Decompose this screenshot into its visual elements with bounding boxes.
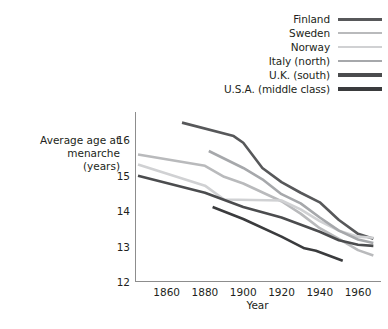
legend-color-swatch	[338, 32, 382, 34]
x-tick-label: 1900	[223, 286, 263, 298]
legend-item-label: Italy (north)	[269, 55, 330, 67]
series-line	[182, 123, 373, 239]
x-tick-label: 1960	[338, 286, 378, 298]
legend-item-label: Sweden	[289, 27, 330, 39]
y-tick-label: 13	[104, 241, 130, 253]
legend-item[interactable]: U.S.A. (middle class)	[196, 82, 382, 96]
legend-color-swatch	[338, 87, 382, 90]
y-tick-label: 14	[104, 205, 130, 217]
legend-item[interactable]: Norway	[196, 40, 382, 54]
y-tick-label: 16	[104, 134, 130, 146]
series-line	[209, 151, 374, 243]
series-lines	[135, 112, 381, 282]
legend-item-label: U.K. (south)	[269, 69, 330, 81]
legend-item-label: U.S.A. (middle class)	[224, 83, 330, 95]
legend-color-swatch	[338, 60, 382, 62]
x-axis-title: Year	[135, 299, 380, 311]
series-line	[138, 176, 373, 246]
plot-area	[135, 112, 381, 282]
y-tick-label: 15	[104, 170, 130, 182]
legend-color-swatch	[338, 73, 382, 76]
y-tick-label: 12	[104, 276, 130, 288]
chart-legend: FinlandSwedenNorwayItaly (north)U.K. (so…	[196, 12, 382, 96]
legend-item[interactable]: Sweden	[196, 26, 382, 40]
legend-item-label: Norway	[291, 41, 330, 53]
legend-item[interactable]: U.K. (south)	[196, 68, 382, 82]
x-tick-label: 1880	[185, 286, 225, 298]
legend-color-swatch	[338, 46, 382, 48]
legend-item[interactable]: Finland	[196, 12, 382, 26]
legend-color-swatch	[338, 18, 382, 21]
x-tick-label: 1920	[262, 286, 302, 298]
y-axis-title-line-2: menarche	[16, 147, 120, 160]
chart-figure: FinlandSwedenNorwayItaly (north)U.K. (so…	[0, 0, 388, 329]
legend-item-label: Finland	[293, 13, 330, 25]
x-tick-label: 1940	[300, 286, 340, 298]
x-tick-label: 1860	[147, 286, 187, 298]
legend-item[interactable]: Italy (north)	[196, 54, 382, 68]
